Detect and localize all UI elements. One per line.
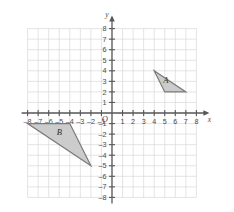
y-tick-label: 2	[103, 88, 107, 97]
x-tick-label: 8	[194, 117, 198, 126]
axis-names: Oxy	[102, 10, 212, 124]
y-tick-label: –8	[99, 193, 107, 202]
x-tick-label: –3	[76, 117, 84, 126]
y-tick-label: 7	[103, 35, 107, 44]
coordinate-plane-svg: –8–7–6–5–4–3–2–112345678–8–7–6–5–4–3–2–1…	[0, 0, 234, 212]
y-tick-label: 6	[103, 45, 107, 54]
x-tick-label: 2	[131, 117, 135, 126]
y-tick-label: 3	[103, 77, 107, 86]
y-axis-label: y	[104, 10, 109, 19]
x-tick-label: 1	[121, 117, 125, 126]
x-axis-label: x	[207, 115, 212, 124]
y-tick-label: 8	[103, 24, 107, 33]
origin-label: O	[102, 114, 108, 124]
x-tick-label: 6	[173, 117, 177, 126]
y-tick-label: 1	[103, 98, 107, 107]
x-tick-label: 4	[152, 117, 156, 126]
y-tick-label: –5	[99, 161, 107, 170]
y-tick-label: –6	[99, 172, 107, 181]
shape-label-a: A	[162, 75, 169, 85]
y-axis-arrowhead	[109, 16, 115, 22]
shape-label-b: B	[57, 127, 62, 137]
y-tick-label: –7	[99, 182, 107, 191]
x-tick-label: 3	[142, 117, 146, 126]
coordinate-plane-figure: –8–7–6–5–4–3–2–112345678–8–7–6–5–4–3–2–1…	[0, 0, 234, 212]
x-tick-label: –2	[87, 117, 95, 126]
x-tick-label: 7	[184, 117, 188, 126]
y-tick-label: 5	[103, 56, 107, 65]
x-tick-label: 5	[163, 117, 167, 126]
y-tick-label: 4	[103, 66, 107, 75]
y-tick-label: –3	[99, 140, 107, 149]
axes	[22, 16, 210, 204]
y-tick-label: –4	[99, 151, 107, 160]
y-tick-label: –2	[99, 130, 107, 139]
